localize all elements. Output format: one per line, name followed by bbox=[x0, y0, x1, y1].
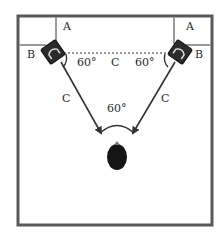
speaker-placement-diagram: A B A B C 60° 60° C C 60° bbox=[0, 0, 224, 238]
label-left-a: A bbox=[62, 20, 72, 33]
right-speaker-icon bbox=[167, 39, 192, 64]
label-left-angle: 60° bbox=[77, 56, 97, 69]
label-right-b: B bbox=[195, 48, 203, 61]
label-right-angle: 60° bbox=[135, 56, 155, 69]
left-speaker-icon bbox=[40, 39, 65, 64]
label-speaker-spacing: C bbox=[111, 56, 119, 69]
label-listener-angle: 60° bbox=[107, 102, 127, 115]
listener-angle-arc bbox=[100, 126, 134, 134]
label-right-to-listener: C bbox=[161, 92, 169, 105]
label-right-a: A bbox=[185, 20, 195, 33]
label-left-b: B bbox=[27, 48, 35, 61]
label-left-to-listener: C bbox=[62, 92, 70, 105]
listener-icon bbox=[107, 141, 127, 170]
right-speaker-angle-arc bbox=[164, 54, 168, 67]
